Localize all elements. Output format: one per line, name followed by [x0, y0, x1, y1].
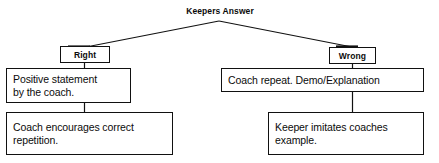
branch-node-right[interactable]: Right — [60, 46, 110, 63]
node-right-step-2[interactable]: Coach encourages correct repetition. — [6, 112, 173, 155]
node-wrong-step-1[interactable]: Coach repeat. Demo/Explanation — [221, 68, 424, 92]
node-wrong-step-1-text: Coach repeat. Demo/Explanation — [222, 74, 384, 87]
node-right-step-2-text: Coach encourages correct repetition. — [7, 121, 138, 146]
node-right-step-1-text: Positive statement by the coach. — [7, 73, 101, 98]
flowchart-diagram: Keepers Answer Right Wrong Positive stat… — [0, 0, 439, 163]
connector-root-to-right — [86, 21, 219, 47]
branch-node-wrong[interactable]: Wrong — [329, 47, 376, 64]
connector-root-to-wrong — [219, 21, 352, 47]
node-wrong-step-2-text: Keeper imitates coaches example. — [269, 121, 392, 146]
diagram-title-text: Keepers Answer — [186, 6, 254, 16]
branch-node-wrong-label: Wrong — [330, 51, 375, 61]
node-right-step-1[interactable]: Positive statement by the coach. — [6, 68, 131, 103]
diagram-title: Keepers Answer — [176, 4, 264, 17]
node-wrong-step-2[interactable]: Keeper imitates coaches example. — [268, 112, 424, 155]
branch-node-right-label: Right — [61, 50, 109, 60]
